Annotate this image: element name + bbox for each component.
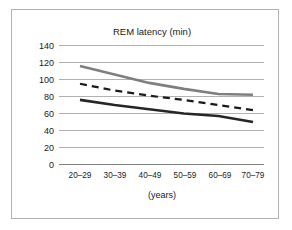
xtick-label-50-59: 50–59 xyxy=(174,171,197,180)
ytick-label-20: 20 xyxy=(44,143,54,153)
rem-latency-line-chart: REM latency (min) 140 120 100 80 60 40 2… xyxy=(12,10,278,218)
x-axis-label: (years) xyxy=(148,190,176,200)
xtick-label-70-79: 70–79 xyxy=(242,171,265,180)
xtick-label-20-29: 20–29 xyxy=(69,171,92,180)
ytick-label-60: 60 xyxy=(44,109,54,119)
figure-panel: REM latency (min) 140 120 100 80 60 40 2… xyxy=(11,9,279,219)
chart-title: REM latency (min) xyxy=(113,26,191,37)
ytick-label-100: 100 xyxy=(39,75,54,85)
ytick-label-40: 40 xyxy=(44,126,54,136)
ytick-label-0: 0 xyxy=(49,160,54,170)
ytick-label-80: 80 xyxy=(44,92,54,102)
ytick-label-140: 140 xyxy=(39,41,54,51)
xtick-label-40-49: 40–49 xyxy=(139,171,162,180)
ytick-label-120: 120 xyxy=(39,58,54,68)
xtick-label-60-69: 60–69 xyxy=(209,171,232,180)
xtick-label-30-39: 30–39 xyxy=(104,171,127,180)
